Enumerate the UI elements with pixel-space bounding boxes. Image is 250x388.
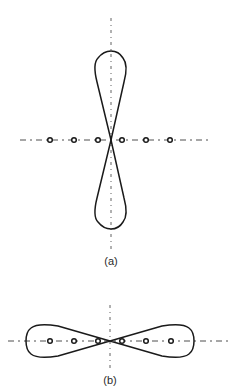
panel-a-label: (a) [104, 255, 117, 267]
diagram-canvas [0, 0, 250, 388]
array-element [144, 339, 149, 344]
array-element [144, 138, 149, 143]
array-element [168, 138, 173, 143]
panel-b [8, 305, 232, 372]
panel-b-label: (b) [103, 374, 116, 386]
array-element [96, 138, 101, 143]
lower-lobe [95, 140, 126, 229]
array-element [72, 339, 77, 344]
array-element [48, 138, 53, 143]
panel-a [20, 18, 212, 252]
array-element [120, 138, 125, 143]
array-element [120, 339, 125, 344]
upper-lobe [95, 51, 126, 140]
array-element [169, 339, 174, 344]
array-element [72, 138, 77, 143]
array-element [48, 339, 53, 344]
array-element [96, 339, 101, 344]
